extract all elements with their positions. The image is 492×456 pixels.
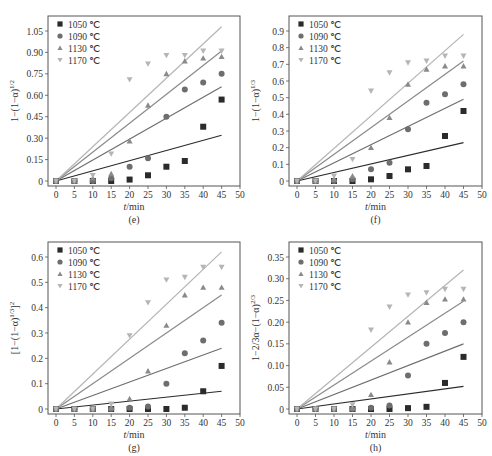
series-0 [294, 354, 467, 412]
square-marker [405, 166, 411, 172]
legend-entry: 1170 ℃ [68, 282, 100, 292]
circle-marker [298, 33, 303, 38]
x-tick-label: 5 [72, 418, 77, 428]
square-marker [387, 173, 393, 179]
legend: 1050 ℃1090 ℃1130 ℃1170 ℃ [57, 246, 100, 292]
square-marker [424, 404, 430, 410]
x-tick-label: 45 [217, 190, 227, 200]
triangle-up-marker [200, 284, 206, 289]
series-0 [53, 97, 225, 184]
chart-e: 0510152025303540455000.150.300.450.600.7… [8, 16, 245, 226]
y-tick-label: 0 [279, 405, 284, 415]
triangle-up-marker [387, 359, 393, 364]
chart-h: 0510152025303540455000.050.100.150.200.2… [249, 242, 487, 454]
triangle-up-marker [219, 54, 225, 59]
x-tick-label: 15 [348, 190, 358, 200]
x-tick-label: 15 [106, 190, 116, 200]
svg-text:1−(1−α)1/2​: 1−(1−α)1/2​ [8, 79, 21, 122]
y-tick-label: 0 [38, 177, 43, 187]
circle-marker [387, 403, 393, 409]
x-tick-label: 40 [440, 190, 450, 200]
y-tick-label: 0.60 [26, 91, 43, 101]
y-tick-label: 0.9 [272, 27, 284, 37]
triangle-up-marker [219, 284, 225, 289]
triangle-up-marker [368, 392, 374, 397]
triangle-down-marker [57, 284, 62, 289]
square-marker [442, 133, 448, 139]
x-tick-label: 10 [329, 418, 339, 428]
fit-line [56, 87, 222, 181]
x-tick-label: 40 [198, 190, 208, 200]
triangle-down-marker [90, 173, 96, 178]
y-tick-label: 0.75 [26, 69, 43, 79]
series-3 [294, 287, 467, 412]
x-axis-label: t/min [365, 429, 386, 440]
plot-frame [48, 242, 240, 414]
subplot-caption: (e) [128, 214, 139, 226]
square-marker [127, 177, 133, 183]
square-marker [145, 172, 151, 178]
square-marker [442, 380, 448, 386]
x-tick-label: 10 [88, 190, 98, 200]
triangle-up-marker [145, 368, 151, 373]
x-tick-label: 50 [477, 190, 487, 200]
series-2 [53, 54, 225, 184]
x-tick-label: 40 [198, 418, 208, 428]
y-tick-label: 0.2 [272, 143, 284, 153]
triangle-down-marker [219, 265, 225, 270]
triangle-up-marker [405, 319, 411, 324]
circle-marker [368, 166, 374, 172]
figure: 0510152025303540455000.150.300.450.600.7… [0, 0, 492, 456]
x-tick-label: 10 [329, 190, 339, 200]
square-marker [424, 163, 430, 169]
series-2 [294, 63, 467, 183]
circle-marker [442, 330, 448, 336]
triangle-down-marker [405, 292, 411, 297]
triangle-up-marker [163, 71, 169, 76]
square-marker [163, 164, 169, 170]
x-tick-label: 35 [180, 418, 190, 428]
y-tick-label: 0.90 [26, 48, 43, 58]
x-tick-label: 20 [366, 190, 376, 200]
square-marker [219, 97, 225, 103]
circle-marker [219, 71, 225, 77]
triangle-up-marker [350, 173, 356, 178]
square-marker [298, 21, 303, 26]
x-tick-label: 5 [313, 418, 318, 428]
y-tick-label: 0.45 [26, 112, 43, 122]
triangle-down-marker [182, 53, 188, 58]
triangle-up-marker [163, 322, 169, 327]
y-tick-label: 0.35 [267, 253, 284, 263]
y-tick-label: 0.7 [272, 60, 284, 70]
triangle-down-marker [163, 53, 169, 58]
plot-frame [48, 16, 240, 186]
legend-entry: 1130 ℃ [309, 44, 341, 54]
x-tick-label: 0 [54, 190, 59, 200]
legend: 1050 ℃1090 ℃1130 ℃1170 ℃ [298, 246, 341, 292]
y-tick-label: 0.20 [267, 318, 284, 328]
y-tick-label: 0.25 [267, 296, 284, 306]
x-tick-label: 25 [385, 418, 395, 428]
x-tick-label: 35 [180, 190, 190, 200]
legend-entry: 1090 ℃ [68, 32, 100, 42]
legend: 1050 ℃1090 ℃1130 ℃1170 ℃ [298, 20, 341, 66]
square-marker [200, 388, 206, 394]
y-tick-label: 0.30 [267, 274, 284, 284]
legend-entry: 1090 ℃ [309, 258, 341, 268]
y-tick-label: 0.1 [272, 160, 284, 170]
series-2 [53, 284, 225, 411]
x-axis-label: t/min [123, 201, 144, 212]
triangle-up-marker [182, 292, 188, 297]
triangle-up-marker [442, 63, 448, 68]
triangle-down-marker [298, 58, 303, 63]
y-tick-label: 0.2 [31, 354, 43, 364]
legend: 1050 ℃1090 ℃1130 ℃1170 ℃ [57, 20, 100, 66]
fit-line [56, 295, 222, 409]
triangle-down-marker [387, 70, 393, 75]
x-tick-label: 10 [88, 418, 98, 428]
x-tick-label: 0 [295, 190, 300, 200]
triangle-up-marker [57, 45, 62, 50]
legend-entry: 1130 ℃ [309, 270, 341, 280]
chart-f: 0510152025303540455000.10.20.30.40.50.60… [249, 16, 487, 226]
circle-marker [368, 405, 374, 411]
